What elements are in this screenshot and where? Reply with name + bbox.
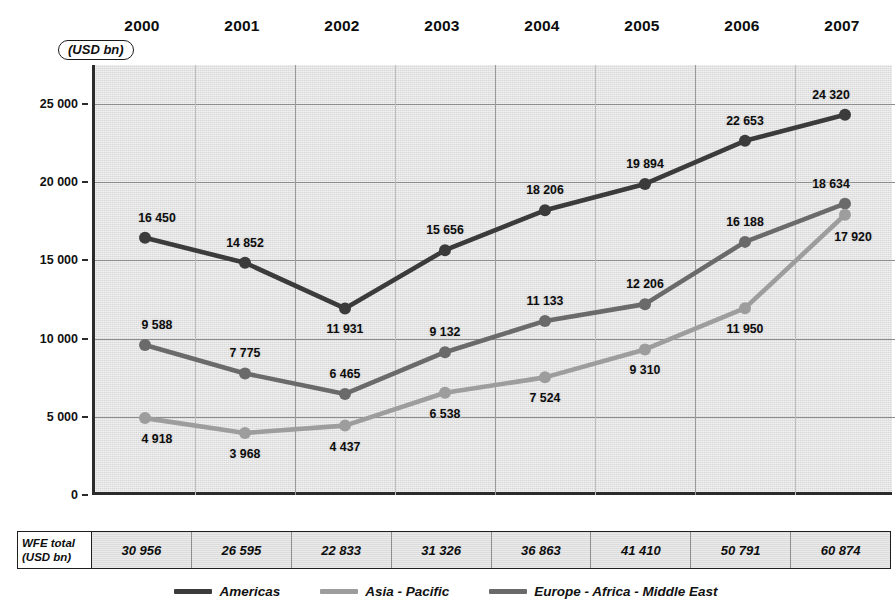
data-point-marker [239, 427, 251, 439]
y-tick-label-5000: 5 000 [47, 410, 78, 424]
legend-label: Americas [219, 584, 280, 599]
data-label: 9 132 [430, 325, 461, 339]
y-tick-label-25000: 25 000 [40, 97, 78, 111]
data-point-marker [139, 339, 151, 351]
legend-item-0: Americas [174, 584, 280, 599]
data-label: 11 931 [327, 322, 364, 336]
year-header-row: 20002001200220032004200520062007 [92, 13, 892, 39]
data-label: 15 656 [426, 223, 464, 237]
data-point-marker [439, 346, 451, 358]
data-label: 24 320 [812, 88, 850, 102]
data-label: 18 206 [526, 183, 564, 197]
data-point-marker [739, 302, 751, 314]
legend-label: Europe - Africa - Middle East [534, 584, 717, 599]
data-point-marker [239, 367, 251, 379]
data-label: 17 920 [834, 230, 872, 244]
y-tick-label-20000: 20 000 [40, 175, 78, 189]
wfe-total-cell-2003: 31 326 [392, 532, 492, 568]
wfe-total-cell-2007: 60 874 [791, 532, 890, 568]
y-tick-label-10000: 10 000 [40, 332, 78, 346]
data-point-marker [439, 387, 451, 399]
unit-badge: (USD bn) [58, 40, 134, 60]
wfe-total-cell-2006: 50 791 [691, 532, 791, 568]
wfe-total-cell-2005: 41 410 [591, 532, 691, 568]
wfe-total-cell-2002: 22 833 [292, 532, 392, 568]
legend-item-1: Asia - Pacific [320, 584, 449, 599]
data-point-marker [839, 109, 851, 121]
data-label: 9 310 [630, 363, 661, 377]
data-label: 16 450 [138, 211, 176, 225]
data-point-marker [339, 302, 351, 314]
data-label: 16 188 [726, 215, 764, 229]
year-header-2006: 2006 [692, 13, 792, 39]
data-point-marker [639, 178, 651, 190]
wfe-total-cell-2000: 30 956 [92, 532, 192, 568]
data-label: 18 634 [812, 177, 850, 191]
series-lines [95, 65, 895, 495]
y-tick-mark-10000 [82, 338, 88, 340]
year-header-2001: 2001 [192, 13, 292, 39]
data-label: 6 465 [330, 367, 361, 381]
wfe-total-cell-2004: 36 863 [492, 532, 592, 568]
year-header-2000: 2000 [92, 13, 192, 39]
y-tick-label-0: 0 [71, 488, 78, 502]
data-point-marker [139, 412, 151, 424]
legend-label: Asia - Pacific [365, 584, 449, 599]
data-label: 4 918 [142, 432, 173, 446]
legend-swatch-icon [174, 589, 212, 594]
y-tick-mark-5000 [82, 416, 88, 418]
data-label: 12 206 [626, 277, 664, 291]
wfe-total-header-line2: (USD bn) [14, 550, 95, 564]
chart-legend: AmericasAsia - PacificEurope - Africa - … [0, 578, 892, 604]
data-label: 6 538 [430, 407, 461, 421]
y-tick-mark-20000 [82, 181, 88, 183]
legend-swatch-icon [320, 589, 358, 594]
data-label: 7 524 [530, 391, 561, 405]
wfe-total-table: WFE total (USD bn) 30 95626 59522 83331 … [17, 531, 891, 569]
data-point-marker [839, 209, 851, 221]
data-label: 3 968 [230, 447, 261, 461]
wfe-total-header-line1: WFE total [14, 536, 95, 550]
data-label: 19 894 [626, 157, 664, 171]
y-tick-mark-15000 [82, 259, 88, 261]
data-point-marker [639, 298, 651, 310]
year-header-2004: 2004 [492, 13, 592, 39]
data-point-marker [439, 244, 451, 256]
data-label: 11 133 [527, 294, 564, 308]
legend-item-2: Europe - Africa - Middle East [489, 584, 717, 599]
year-header-2003: 2003 [392, 13, 492, 39]
y-axis-labels: 25 00020 00015 00010 0005 0000 [0, 65, 88, 495]
data-point-marker [339, 420, 351, 432]
wfe-total-cell-2001: 26 595 [192, 532, 292, 568]
data-label: 4 437 [330, 440, 361, 454]
wfe-total-header: WFE total (USD bn) [18, 532, 92, 568]
legend-swatch-icon [489, 589, 527, 594]
data-point-marker [139, 232, 151, 244]
plot-area: 16 45014 85211 93115 65618 20619 89422 6… [92, 65, 892, 495]
data-label: 7 775 [230, 346, 261, 360]
year-header-2002: 2002 [292, 13, 392, 39]
data-point-marker [539, 204, 551, 216]
data-point-marker [239, 257, 251, 269]
data-label: 11 950 [727, 322, 764, 336]
year-header-2005: 2005 [592, 13, 692, 39]
data-label: 9 588 [142, 318, 173, 332]
data-point-marker [639, 343, 651, 355]
y-tick-mark-25000 [82, 103, 88, 105]
y-tick-mark-0 [82, 494, 88, 496]
data-point-marker [839, 198, 851, 210]
y-tick-label-15000: 15 000 [40, 253, 78, 267]
data-point-marker [739, 135, 751, 147]
data-label: 14 852 [226, 236, 264, 250]
data-point-marker [739, 236, 751, 248]
year-header-2007: 2007 [792, 13, 892, 39]
data-point-marker [539, 315, 551, 327]
data-point-marker [539, 371, 551, 383]
data-label: 22 653 [726, 114, 764, 128]
data-point-marker [339, 388, 351, 400]
